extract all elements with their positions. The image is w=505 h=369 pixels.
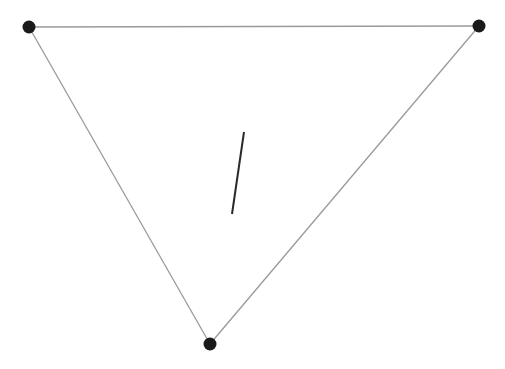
inner-segment xyxy=(232,132,244,214)
triangle-vertices xyxy=(23,20,486,351)
vertex-top-right xyxy=(473,20,486,33)
triangle-diagram xyxy=(0,0,505,369)
vertex-bottom xyxy=(204,338,217,351)
edge-bottom-top-left xyxy=(29,27,210,344)
edge-top-right-bottom xyxy=(210,26,479,344)
vertex-top-left xyxy=(23,21,36,34)
edge-top-left-top-right xyxy=(29,26,479,27)
triangle-edges xyxy=(29,26,479,344)
